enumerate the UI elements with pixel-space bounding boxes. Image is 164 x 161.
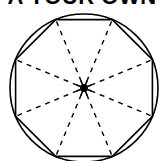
radius-line	[16, 60, 78, 86]
radius-line	[91, 60, 153, 86]
radius-line	[87, 20, 113, 82]
radius-line	[91, 91, 153, 117]
radius-line	[56, 95, 82, 157]
radius-line	[16, 91, 78, 117]
octagon-in-circle-diagram	[0, 0, 164, 161]
center-starburst-icon	[77, 81, 92, 96]
radius-line	[87, 95, 113, 157]
radius-line	[56, 20, 82, 82]
